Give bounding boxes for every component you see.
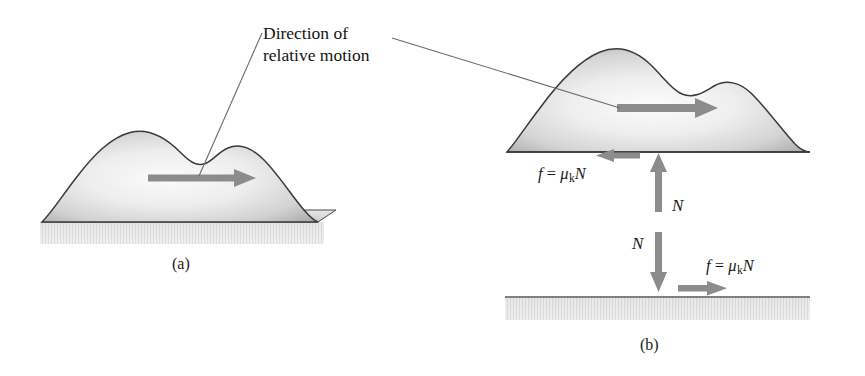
ground-panel-a: [40, 222, 324, 244]
block-panel-b: [507, 49, 810, 152]
eq-bottom-normal: N: [743, 256, 754, 275]
normal-force-arrow-up: [650, 153, 667, 212]
caption-line-1: Direction of: [263, 22, 369, 44]
normal-force-label-down: N: [632, 234, 643, 254]
caption-direction-of-relative-motion: Direction of relative motion: [263, 22, 369, 66]
normal-force-arrow-down: [650, 232, 667, 292]
diagram-canvas: [0, 0, 865, 376]
friction-arrow-on-surface: [678, 281, 727, 296]
panel-label-b: (b): [640, 336, 659, 354]
caption-line-2: relative motion: [263, 44, 369, 66]
friction-equation-on-block: f = μkN: [538, 164, 586, 184]
eq-top-equals: =: [547, 164, 556, 183]
eq-top-f: f: [538, 164, 543, 183]
friction-equation-on-surface: f = μkN: [706, 256, 754, 276]
normal-force-label-up: N: [672, 196, 683, 216]
eq-bottom-f: f: [706, 256, 711, 275]
ground-panel-b: [505, 297, 810, 320]
eq-bottom-equals: =: [715, 256, 724, 275]
panel-label-a: (a): [172, 255, 190, 273]
eq-top-normal: N: [575, 164, 586, 183]
friction-diagram: Direction of relative motion (a) (b) f =…: [0, 0, 865, 376]
